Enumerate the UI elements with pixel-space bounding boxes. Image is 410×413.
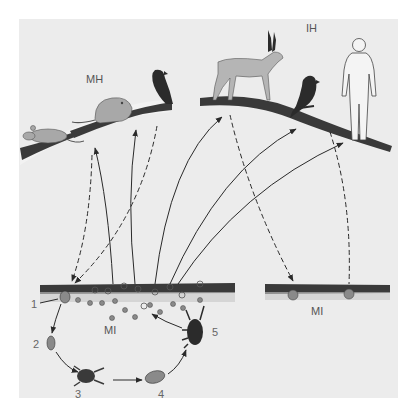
label-mh: MH [86,73,103,85]
human-icon [342,39,376,141]
stage-3-mite-icon [74,366,104,386]
bird-left-icon [152,70,173,104]
rat-icon [72,98,132,123]
shedding-arrows [72,115,349,284]
label-mi-right: MI [311,305,323,317]
stage-1-egg-icon [60,291,70,303]
antelope-icon [213,30,283,100]
bird-right-icon [290,76,320,118]
stage-5-label: 5 [212,326,218,338]
stage-2-egg-icon [47,336,55,350]
infection-arrows [95,117,343,284]
label-ih: IH [306,22,317,34]
stage-4-label: 4 [158,388,164,400]
life-cycle-diagram: MH IH [0,0,410,413]
stage-3-label: 3 [75,388,81,400]
soil-right [265,284,390,300]
stage-1-label: 1 [31,298,37,310]
stage-2-label: 2 [33,338,39,350]
stage-5-mite-icon [182,306,204,348]
stage-4-egg-icon [144,369,166,386]
label-mi-left: MI [104,324,116,336]
life-cycle-arrows [52,304,186,380]
